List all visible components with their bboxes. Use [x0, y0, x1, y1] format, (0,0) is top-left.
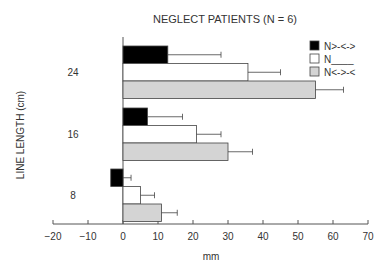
- x-tick-label: −10: [80, 231, 97, 242]
- x-tick-label: 0: [120, 231, 126, 242]
- bar: [123, 64, 248, 82]
- y-axis-label: LINE LENGTH (cm): [15, 91, 26, 179]
- x-axis-label: mm: [203, 251, 220, 262]
- legend-label: N>-<->: [324, 41, 356, 52]
- bar-chart: NEGLECT PATIENTS (N = 6) LINE LENGTH (cm…: [0, 0, 391, 270]
- legend-swatch: [310, 54, 319, 63]
- x-tick-label: 70: [362, 231, 374, 242]
- x-tick-label: 60: [327, 231, 339, 242]
- y-tick-label: 16: [67, 129, 79, 140]
- x-tick-label: 30: [222, 231, 234, 242]
- chart-title: NEGLECT PATIENTS (N = 6): [153, 13, 297, 25]
- legend-swatch: [310, 67, 319, 76]
- x-tick-label: 10: [152, 231, 164, 242]
- bar: [123, 187, 141, 205]
- bars: [111, 46, 344, 222]
- legend-label: N____: [324, 54, 354, 65]
- legend: N>-<->N____N<->-<: [310, 41, 356, 78]
- x-tick-label: 50: [292, 231, 304, 242]
- bar: [111, 169, 123, 187]
- y-tick-label: 24: [67, 67, 79, 78]
- legend-label: N<->-<: [324, 67, 356, 78]
- x-tick-label: −20: [45, 231, 62, 242]
- bar: [123, 204, 162, 222]
- bar: [123, 126, 197, 144]
- x-tick-label: 40: [257, 231, 269, 242]
- bar: [123, 81, 316, 99]
- bar: [123, 143, 228, 161]
- bar: [123, 46, 168, 64]
- bar: [123, 108, 148, 126]
- y-tick-label: 8: [70, 190, 76, 201]
- x-tick-label: 20: [187, 231, 199, 242]
- legend-swatch: [310, 41, 319, 50]
